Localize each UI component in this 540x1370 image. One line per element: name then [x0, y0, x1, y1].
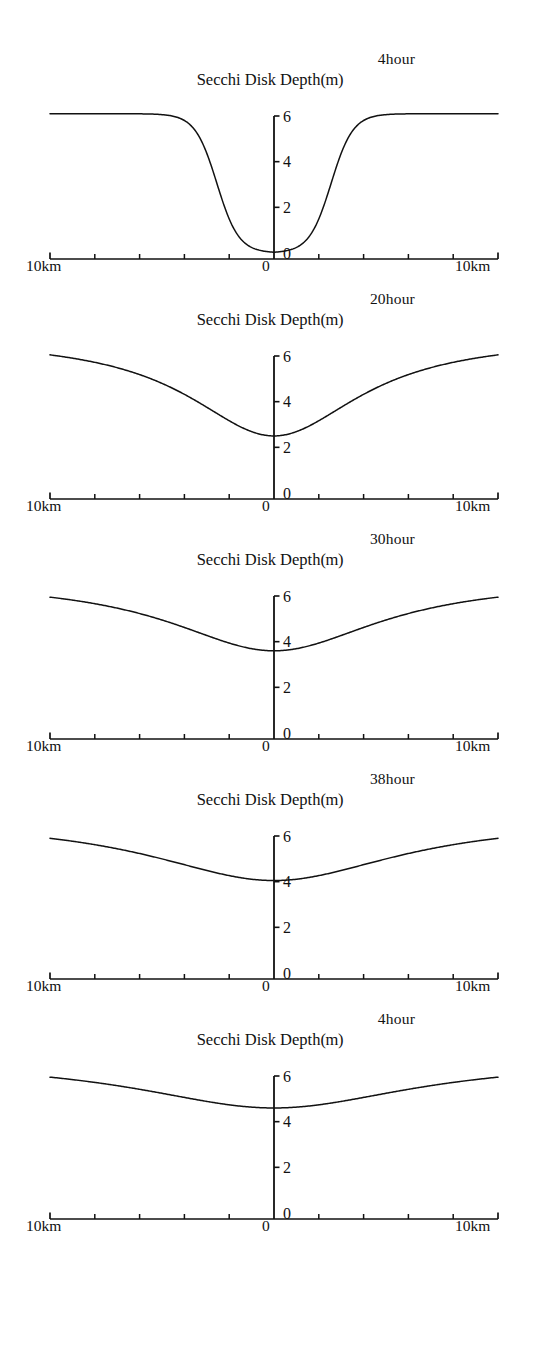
- panel-plot-5: 0246: [0, 1008, 540, 1248]
- chart-panel-3: 30hour Secchi Disk Depth(m) 0246 10km 0 …: [0, 528, 540, 768]
- y-axis-tick-label: 4: [283, 633, 291, 650]
- x-axis-zero-label-2: 0: [262, 497, 270, 515]
- y-axis-tick-label: 2: [283, 199, 291, 216]
- chart-panel-1: 4hour Secchi Disk Depth(m) 0246 10km 0 1…: [0, 48, 540, 288]
- x-axis-right-label-1: 10km: [455, 257, 490, 275]
- y-axis-tick-label: 0: [283, 725, 291, 742]
- y-axis-tick-label: 4: [283, 393, 291, 410]
- x-axis-left-label-1: 10km: [26, 257, 61, 275]
- x-axis-left-label-3: 10km: [26, 737, 61, 755]
- y-axis-tick-label: 4: [283, 1113, 291, 1130]
- y-axis-tick-label: 6: [283, 108, 291, 125]
- x-axis-zero-label-5: 0: [262, 1217, 270, 1235]
- secchi-disk-depth-figure: 4hour Secchi Disk Depth(m) 0246 10km 0 1…: [0, 0, 540, 1370]
- y-axis-tick-label: 0: [283, 1205, 291, 1222]
- x-axis-right-label-5: 10km: [455, 1217, 490, 1235]
- y-axis-tick-label: 2: [283, 679, 291, 696]
- x-axis-zero-label-1: 0: [262, 257, 270, 275]
- x-axis-left-label-4: 10km: [26, 977, 61, 995]
- chart-panel-4: 38hour Secchi Disk Depth(m) 0246 10km 0 …: [0, 768, 540, 1008]
- y-axis-tick-label: 2: [283, 1159, 291, 1176]
- y-axis-tick-label: 2: [283, 439, 291, 456]
- x-axis-zero-label-3: 0: [262, 737, 270, 755]
- x-axis-zero-label-4: 0: [262, 977, 270, 995]
- chart-panel-5: 4hour Secchi Disk Depth(m) 0246 10km 0 1…: [0, 1008, 540, 1248]
- panel-plot-1: 0246: [0, 48, 540, 288]
- y-axis-tick-label: 0: [283, 485, 291, 502]
- y-axis-tick-label: 6: [283, 588, 291, 605]
- y-axis-tick-label: 6: [283, 828, 291, 845]
- x-axis-left-label-2: 10km: [26, 497, 61, 515]
- chart-panel-2: 20hour Secchi Disk Depth(m) 0246 10km 0 …: [0, 288, 540, 528]
- y-axis-tick-label: 0: [283, 245, 291, 262]
- y-axis-tick-label: 6: [283, 1068, 291, 1085]
- x-axis-left-label-5: 10km: [26, 1217, 61, 1235]
- y-axis-tick-label: 4: [283, 153, 291, 170]
- panel-plot-2: 0246: [0, 288, 540, 528]
- x-axis-right-label-2: 10km: [455, 497, 490, 515]
- x-axis-right-label-3: 10km: [455, 737, 490, 755]
- x-axis-right-label-4: 10km: [455, 977, 490, 995]
- y-axis-tick-label: 4: [283, 873, 291, 890]
- y-axis-tick-label: 0: [283, 965, 291, 982]
- y-axis-tick-label: 6: [283, 348, 291, 365]
- y-axis-tick-label: 2: [283, 919, 291, 936]
- panel-plot-3: 0246: [0, 528, 540, 768]
- panel-plot-4: 0246: [0, 768, 540, 1008]
